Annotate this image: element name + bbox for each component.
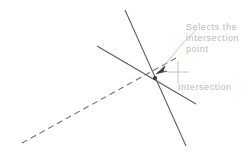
line-diagonal [97, 46, 196, 104]
intersection-point-marker[interactable] [153, 76, 157, 80]
snap-tooltip-label: Intersection [178, 82, 232, 93]
leader-arrowhead-icon [156, 66, 167, 74]
crosshair-cursor-icon[interactable] [167, 61, 189, 83]
line-dashed [22, 58, 176, 143]
cad-diagram-canvas: Selects the intersection point Intersect… [0, 0, 251, 160]
callout-label: Selects the intersection point [186, 22, 239, 55]
